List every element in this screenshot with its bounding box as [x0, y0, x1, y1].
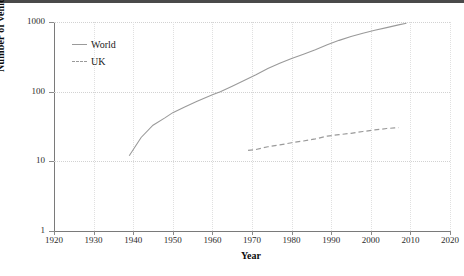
- x-tick-label-1960: 1960: [192, 236, 232, 245]
- legend-item-uk: UK: [72, 53, 116, 70]
- legend-swatch-dashed-icon: [72, 61, 87, 62]
- legend-item-world: World: [72, 36, 116, 53]
- x-tick-label-2010: 2010: [390, 236, 430, 245]
- y-tick-1000: [49, 22, 54, 23]
- x-tick-label-1920: 1920: [34, 236, 74, 245]
- y-tick-label-1000: 1000: [11, 17, 45, 26]
- legend-label-uk: UK: [91, 57, 105, 67]
- chart-figure: Number of vehicles (Millions) 1101001000…: [0, 0, 464, 276]
- x-tick-label-2000: 2000: [351, 236, 391, 245]
- x-tick-label-1940: 1940: [113, 236, 153, 245]
- figure-top-rule: [0, 0, 464, 3]
- x-tick-label-1990: 1990: [311, 236, 351, 245]
- x-tick-label-1970: 1970: [232, 236, 272, 245]
- y-tick-100: [49, 92, 54, 93]
- x-tick-label-1950: 1950: [153, 236, 193, 245]
- legend-swatch-solid-icon: [72, 44, 87, 45]
- x-tick-label-1980: 1980: [272, 236, 312, 245]
- series-line-uk: [248, 128, 398, 151]
- series-line-world: [129, 23, 406, 156]
- gridline-x-2020: [450, 22, 451, 231]
- y-tick-10: [49, 161, 54, 162]
- legend-label-world: World: [91, 40, 116, 50]
- y-axis-title: Number of vehicles (Millions): [0, 0, 6, 72]
- y-tick-label-1: 1: [11, 226, 45, 235]
- x-tick-label-2020: 2020: [430, 236, 464, 245]
- chart-legend: World UK: [72, 36, 116, 70]
- x-tick-label-1930: 1930: [74, 236, 114, 245]
- y-tick-label-100: 100: [11, 87, 45, 96]
- y-tick-label-10: 10: [11, 156, 45, 165]
- x-axis-title: Year: [206, 250, 296, 261]
